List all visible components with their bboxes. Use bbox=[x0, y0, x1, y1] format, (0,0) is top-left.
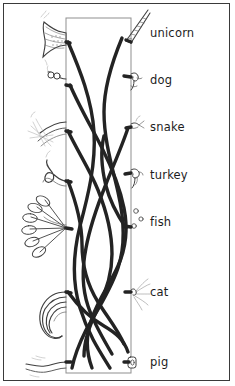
label-turkey: turkey bbox=[150, 168, 188, 182]
label-fish: fish bbox=[150, 215, 171, 229]
label-unicorn: unicorn bbox=[150, 26, 194, 40]
tail-matching-puzzle: unicorn dog snake turkey fish cat pig bbox=[0, 0, 235, 386]
animal-label-list: unicorn dog snake turkey fish cat pig bbox=[0, 0, 235, 386]
label-snake: snake bbox=[150, 120, 185, 134]
label-dog: dog bbox=[150, 73, 172, 87]
label-pig: pig bbox=[150, 355, 168, 369]
label-cat: cat bbox=[150, 285, 168, 299]
